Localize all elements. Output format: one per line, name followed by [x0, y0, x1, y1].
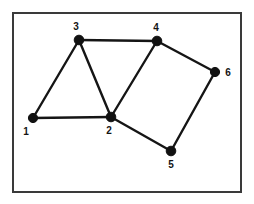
graph-canvas	[0, 0, 254, 204]
graph-figure: 123456	[0, 0, 254, 204]
graph-node-2	[106, 112, 116, 122]
graph-node-label-5: 5	[168, 160, 174, 170]
graph-node-1	[28, 113, 37, 122]
graph-edge-3-4	[79, 40, 157, 41]
graph-node-label-6: 6	[225, 68, 231, 78]
graph-node-label-3: 3	[73, 22, 79, 32]
graph-node-4	[152, 36, 162, 46]
graph-node-label-1: 1	[23, 127, 29, 137]
graph-edge-1-2	[33, 117, 111, 118]
graph-node-6	[210, 67, 219, 76]
graph-node-label-4: 4	[153, 23, 159, 33]
graph-node-label-2: 2	[106, 126, 112, 136]
graph-node-3	[74, 35, 84, 45]
graph-node-5	[166, 146, 176, 156]
